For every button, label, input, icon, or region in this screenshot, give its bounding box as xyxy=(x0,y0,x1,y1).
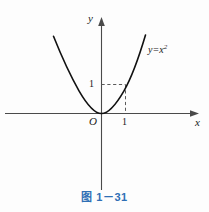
curve-equation-exponent: 2 xyxy=(164,43,168,51)
curve-equation-label: y=x2 xyxy=(148,44,167,55)
curve-equation-base: y=x xyxy=(148,44,164,55)
y-axis-tick-label-1: 1 xyxy=(89,79,94,89)
y-axis-arrowhead xyxy=(98,17,105,26)
parabola-curve xyxy=(54,35,146,114)
figure-caption: 图 1－31 xyxy=(0,192,209,203)
figure-container: y x O 1 1 y=x2 图 1－31 xyxy=(0,0,209,212)
x-axis-tick-label-1: 1 xyxy=(122,117,127,127)
origin-label: O xyxy=(89,116,97,127)
y-axis-label: y xyxy=(88,13,93,24)
x-axis-label: x xyxy=(195,117,200,128)
plot-area: y x O 1 1 y=x2 xyxy=(0,0,209,190)
coordinate-plot xyxy=(0,0,209,190)
y-axis xyxy=(98,17,105,190)
guide-lines xyxy=(102,85,126,114)
